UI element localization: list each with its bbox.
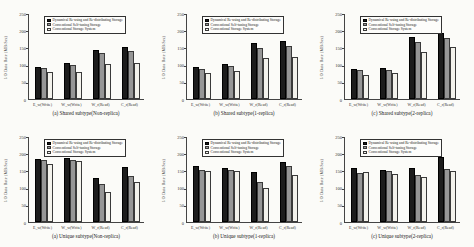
y-tick-mark xyxy=(184,154,187,155)
plot-area: Dynamical Re-using and Re-distributing S… xyxy=(186,137,302,223)
legend-label: Dynamical Re-using and Re-distributing S… xyxy=(369,141,439,145)
y-tick-mark xyxy=(342,206,345,207)
chart-caption: (b) Shared subtype(1-replica) xyxy=(182,110,306,116)
bar-conventional xyxy=(450,171,456,222)
legend-row: Dynamical Re-using and Re-distributing S… xyxy=(47,141,123,146)
bar-conventional xyxy=(392,73,398,99)
y-tick-mark xyxy=(26,66,29,67)
legend-row: Conventional Storage System xyxy=(47,150,123,155)
legend-label: Conventional Self-tuning Storage xyxy=(369,23,417,27)
y-tick-label: 200 xyxy=(166,152,184,157)
y-tick-label: 250 xyxy=(166,135,184,140)
plot-area: Dynamical Re-using and Re-distributing S… xyxy=(344,14,460,100)
y-tick-mark xyxy=(342,154,345,155)
legend-row: Dynamical Re-using and Re-distributing S… xyxy=(205,18,281,23)
legend-row: Conventional Storage System xyxy=(205,27,281,32)
legend: Dynamical Re-using and Re-distributing S… xyxy=(360,16,442,34)
y-tick-mark xyxy=(184,189,187,190)
legend-label: Conventional Storage System xyxy=(369,150,412,154)
y-tick-label: 50 xyxy=(8,203,26,208)
y-axis-label: I/O Data Rate (MB/Sec) xyxy=(319,14,327,100)
y-tick-mark xyxy=(342,14,345,15)
y-tick-label: 150 xyxy=(324,169,342,174)
y-tick-mark xyxy=(26,206,29,207)
y-tick-label: 100 xyxy=(166,63,184,68)
legend-swatch-icon xyxy=(47,19,52,22)
y-tick-label: 50 xyxy=(8,80,26,85)
y-tick-mark xyxy=(184,137,187,138)
x-tick-label: C_r(Read) xyxy=(271,102,305,107)
y-tick-mark xyxy=(26,137,29,138)
legend-label: Conventional Self-tuning Storage xyxy=(53,146,101,150)
bar-conventional xyxy=(421,177,427,222)
legend-swatch-icon xyxy=(205,28,210,31)
chart-caption: (a) Unique subtype(Non-replica) xyxy=(24,233,148,239)
legend-label: Conventional Storage System xyxy=(53,27,96,31)
y-tick-label: 150 xyxy=(8,46,26,51)
legend: Dynamical Re-using and Re-distributing S… xyxy=(44,139,126,157)
y-tick-label: 250 xyxy=(324,135,342,140)
legend-label: Conventional Storage System xyxy=(211,27,254,31)
y-tick-label: 0 xyxy=(166,98,184,103)
y-tick-mark xyxy=(342,83,345,84)
legend-label: Dynamical Re-using and Re-distributing S… xyxy=(211,141,281,145)
legend: Dynamical Re-using and Re-distributing S… xyxy=(44,16,126,34)
bar-conventional xyxy=(363,75,369,99)
x-tick-label: C_r(Read) xyxy=(113,102,147,107)
x-tick-label: C_r(Read) xyxy=(429,102,463,107)
bar-conventional xyxy=(292,175,298,222)
y-tick-label: 100 xyxy=(324,186,342,191)
y-tick-label: 0 xyxy=(166,221,184,226)
y-tick-label: 250 xyxy=(324,12,342,17)
x-tick-label: C_r(Read) xyxy=(113,225,147,230)
y-tick-label: 100 xyxy=(8,63,26,68)
legend-row: Conventional Storage System xyxy=(205,150,281,155)
y-axis-label: I/O Data Rate (MB/Sec) xyxy=(319,137,327,223)
bar-conventional xyxy=(421,52,427,99)
y-tick-mark xyxy=(342,189,345,190)
y-tick-mark xyxy=(184,66,187,67)
chart-panel-unique-2-replica: I/O Data Rate (MB/Sec)Dynamical Re-using… xyxy=(316,124,474,247)
chart-panel-shared-2-replica: I/O Data Rate (MB/Sec)Dynamical Re-using… xyxy=(316,1,474,124)
y-tick-mark xyxy=(342,48,345,49)
legend-swatch-icon xyxy=(47,146,52,149)
legend-swatch-icon xyxy=(205,151,210,154)
y-tick-mark xyxy=(184,14,187,15)
y-tick-mark xyxy=(184,31,187,32)
y-tick-label: 200 xyxy=(8,29,26,34)
legend-swatch-icon xyxy=(363,23,368,26)
y-tick-label: 150 xyxy=(8,169,26,174)
y-tick-mark xyxy=(184,171,187,172)
legend-row: Conventional Storage System xyxy=(47,27,123,32)
chart-panel-shared-non-replica: I/O Data Rate (MB/Sec)Dynamical Re-using… xyxy=(0,1,158,124)
y-tick-mark xyxy=(342,31,345,32)
bar-conventional xyxy=(234,171,240,222)
bar-conventional xyxy=(263,58,269,99)
y-tick-mark xyxy=(342,137,345,138)
bar-conventional xyxy=(134,63,140,99)
legend-row: Dynamical Re-using and Re-distributing S… xyxy=(47,18,123,23)
x-tick-label: C_r(Read) xyxy=(271,225,305,230)
y-tick-label: 150 xyxy=(166,46,184,51)
legend-swatch-icon xyxy=(363,142,368,145)
y-tick-mark xyxy=(184,48,187,49)
chart-panel-unique-non-replica: I/O Data Rate (MB/Sec)Dynamical Re-using… xyxy=(0,124,158,247)
y-tick-mark xyxy=(342,171,345,172)
y-tick-label: 200 xyxy=(8,152,26,157)
legend-label: Conventional Storage System xyxy=(369,27,412,31)
y-tick-mark xyxy=(26,154,29,155)
y-tick-label: 100 xyxy=(8,186,26,191)
plot-area: Dynamical Re-using and Re-distributing S… xyxy=(186,14,302,100)
chart-panel-shared-1-replica: I/O Data Rate (MB/Sec)Dynamical Re-using… xyxy=(158,1,316,124)
legend-swatch-icon xyxy=(363,28,368,31)
chart-caption: (c) Shared subtype(2-replica) xyxy=(340,110,464,116)
y-tick-label: 0 xyxy=(324,221,342,226)
bar-conventional xyxy=(76,72,82,99)
legend-row: Dynamical Re-using and Re-distributing S… xyxy=(363,18,439,23)
chart-caption: (a) Shared subtype(Non-replica) xyxy=(24,110,148,116)
figure-grid: I/O Data Rate (MB/Sec)Dynamical Re-using… xyxy=(0,0,474,247)
legend-swatch-icon xyxy=(363,19,368,22)
legend-swatch-icon xyxy=(47,142,52,145)
legend-label: Dynamical Re-using and Re-distributing S… xyxy=(369,18,439,22)
bar-conventional xyxy=(47,72,53,99)
